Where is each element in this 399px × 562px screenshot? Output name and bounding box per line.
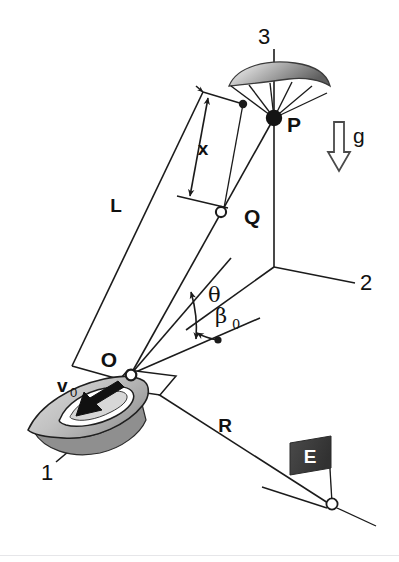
dimension-L-line: [72, 92, 203, 366]
gravity-label: g: [353, 124, 365, 147]
upper-tie: [203, 92, 247, 108]
diagram-canvas: 3 2 1 R L: [0, 0, 399, 562]
dimension-L-label: L: [110, 195, 122, 216]
angle-beta0-arc: [197, 333, 218, 340]
point-O-marker: [126, 370, 137, 381]
dimension-L-top-tick: [196, 86, 203, 92]
flag-base-node: [326, 498, 337, 509]
axis-2: 2: [274, 267, 372, 295]
angle-beta0: β 0: [197, 304, 240, 340]
scan-artifact-line: [0, 555, 399, 556]
canopy-shape: [229, 62, 330, 86]
dimension-x-label: x: [198, 138, 209, 159]
dimension-x-guide-right: [224, 104, 243, 208]
angle-beta0-label: β: [215, 304, 227, 328]
range-R-label: R: [218, 415, 232, 436]
point-P-marker: [266, 110, 282, 126]
point-Q: Q: [216, 205, 260, 228]
point-O-label: O: [101, 348, 117, 371]
g-arrow-icon: [328, 122, 350, 171]
axis-3-label: 3: [258, 24, 270, 49]
flag-ground-line-right: [337, 508, 376, 526]
v0-subscript: 0: [70, 385, 77, 400]
axis-2-line: [274, 267, 355, 283]
parafoil-kinematics-diagram: 3 2 1 R L: [0, 0, 399, 562]
point-P-label: P: [287, 113, 301, 136]
flag-marker: E: [262, 436, 376, 526]
parafoil-canopy: [229, 62, 330, 118]
point-Q-marker: [216, 207, 226, 217]
angle-beta0-subscript: 0: [232, 317, 240, 332]
beta0-ray-line: [131, 318, 260, 374]
axis-2-label: 2: [360, 270, 372, 295]
axis-frame-leg: [186, 267, 274, 330]
axis-3: 3: [258, 24, 274, 267]
gravity-vector: g: [328, 122, 365, 171]
point-Q-label: Q: [244, 205, 260, 228]
v0-label: v: [57, 375, 68, 396]
upper-tie-line: [203, 92, 243, 104]
flag-ground-line-left: [262, 487, 327, 508]
flag-label-E: E: [304, 446, 317, 467]
beta0-reference-ray: [131, 318, 260, 374]
boat: v 0: [28, 370, 176, 455]
axis-1-label: 1: [41, 460, 53, 485]
range-R: R: [133, 378, 328, 503]
axis-frame-leg-line: [186, 267, 274, 330]
range-R-line: [133, 378, 328, 503]
dimension-L: L: [72, 86, 203, 380]
